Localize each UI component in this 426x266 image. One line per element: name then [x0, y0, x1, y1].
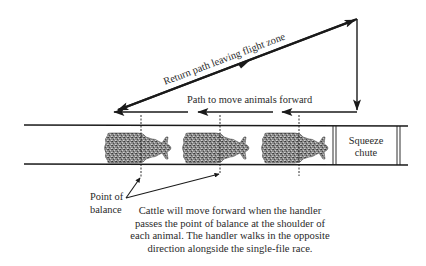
- point-of-balance-pointers: [126, 174, 219, 198]
- animal-1: [105, 133, 172, 163]
- caption-line-2: passes the point of balance at the shoul…: [135, 218, 326, 229]
- caption-line-4: direction alongside the single-file race…: [147, 243, 312, 254]
- caption: Cattle will move forward when the handle…: [130, 205, 330, 254]
- point-of-balance-label-line2: balance: [90, 204, 122, 215]
- squeeze-chute-label-line1: Squeeze: [349, 135, 384, 146]
- cattle-handling-diagram: Return path leaving flight zone Path to …: [0, 0, 426, 266]
- point-of-balance-label-line1: Point of: [90, 191, 124, 202]
- caption-line-3: each animal. The handler walks in the op…: [130, 230, 330, 241]
- caption-line-1: Cattle will move forward when the handle…: [139, 205, 322, 216]
- animal-3: [262, 133, 329, 163]
- squeeze-chute-label-line2: chute: [355, 147, 378, 158]
- squeeze-chute: Squeeze chute: [333, 126, 400, 165]
- animal-2: [183, 133, 250, 163]
- forward-path-label: Path to move animals forward: [187, 94, 313, 105]
- return-path-label: Return path leaving flight zone: [162, 31, 287, 87]
